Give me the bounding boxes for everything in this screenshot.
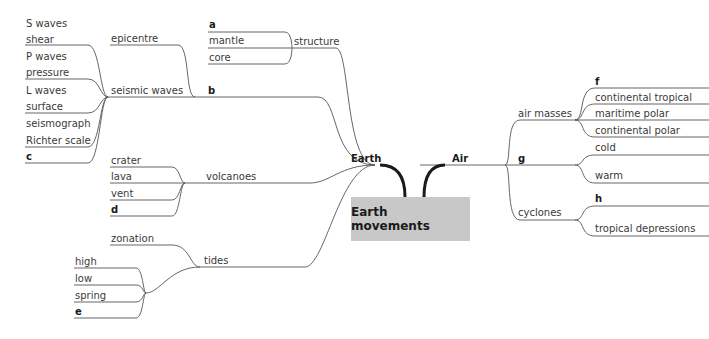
node-continental-tropical: continental tropical — [595, 92, 692, 104]
node-core: core — [209, 52, 231, 64]
node-s-waves: S waves — [26, 18, 67, 30]
node-mantle: mantle — [209, 35, 244, 47]
node-warm: warm — [595, 170, 623, 182]
node-air: Air — [452, 153, 468, 165]
node-f: f — [595, 76, 599, 88]
node-shear: shear — [26, 34, 54, 46]
node-e: e — [75, 306, 82, 318]
node-surface: surface — [26, 101, 63, 113]
node-seismic-waves: seismic waves — [111, 85, 183, 97]
node-crater: crater — [111, 155, 141, 167]
node-zonation: zonation — [111, 233, 154, 245]
node-l-waves: L waves — [26, 85, 66, 97]
node-vent: vent — [111, 188, 133, 200]
central-topic-box: Earth movements — [351, 197, 470, 241]
node-epicentre: epicentre — [111, 33, 158, 45]
node-continental-polar: continental polar — [595, 125, 680, 137]
node-low: low — [75, 273, 92, 285]
node-b: b — [208, 85, 215, 97]
node-pressure: pressure — [26, 67, 69, 79]
node-seismograph: seismograph — [26, 118, 90, 130]
node-spring: spring — [75, 290, 106, 302]
node-structure: structure — [294, 36, 339, 48]
node-g: g — [518, 153, 525, 165]
node-maritime-polar: maritime polar — [595, 108, 669, 120]
node-lava: lava — [111, 171, 132, 183]
node-volcanoes: volcanoes — [206, 171, 256, 183]
node-high: high — [75, 256, 97, 268]
node-richter-scale: Richter scale — [26, 135, 91, 147]
node-a: a — [209, 19, 216, 31]
node-c: c — [26, 151, 32, 163]
node-cyclones: cyclones — [518, 207, 562, 219]
node-tides: tides — [204, 255, 228, 267]
central-topic-label: Earth movements — [351, 205, 470, 233]
node-h: h — [595, 193, 602, 205]
node-air-masses: air masses — [518, 108, 572, 120]
node-p-waves: P waves — [26, 51, 67, 63]
node-earth: Earth — [351, 153, 381, 165]
node-tropical-depressions: tropical depressions — [595, 223, 695, 235]
node-d: d — [111, 204, 118, 216]
node-cold: cold — [595, 142, 616, 154]
